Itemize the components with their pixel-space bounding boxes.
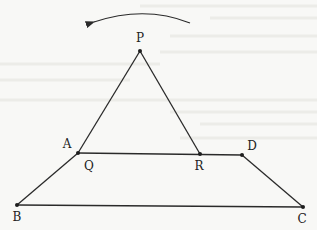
vertex-dots (15, 49, 305, 209)
label-q: Q (84, 159, 94, 173)
segment-bc (17, 205, 303, 207)
segment-ab (17, 153, 78, 205)
diagram-canvas: P A Q R D B C (0, 0, 317, 230)
label-b: B (13, 210, 22, 224)
background-bleed-texture (0, 6, 317, 138)
label-a: A (62, 137, 72, 151)
segment-pq (78, 51, 140, 153)
geometry-diagram: P A Q R D B C (0, 0, 317, 230)
point-c (301, 205, 305, 209)
segment-pr (140, 51, 200, 154)
segment-dc (242, 155, 303, 207)
label-d: D (247, 139, 257, 153)
point-b (15, 203, 19, 207)
label-p: P (136, 31, 144, 45)
trapezoid-abcd (17, 153, 303, 207)
point-a-q (76, 151, 80, 155)
point-d (240, 153, 244, 157)
rotation-arrow-icon (94, 14, 190, 23)
segment-ad (78, 153, 242, 155)
point-p (138, 49, 142, 53)
vertex-labels: P A Q R D B C (13, 31, 307, 226)
point-r (198, 152, 202, 156)
label-c: C (297, 212, 306, 226)
label-r: R (194, 159, 204, 173)
